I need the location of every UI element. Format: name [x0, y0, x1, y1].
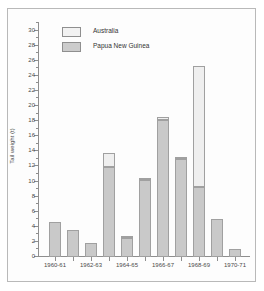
y-axis-tick-minor [36, 113, 38, 114]
y-axis-tick-label: 6 [32, 208, 35, 214]
bar-column [67, 23, 78, 257]
bar-segment-australia [157, 117, 168, 119]
bar-segment-papua-new-guinea [211, 219, 222, 257]
chart-legend: Australia Papua New Guinea [62, 24, 182, 54]
y-axis-tick-minor [36, 37, 38, 38]
bar-segment-australia [121, 236, 132, 238]
y-axis-tick-label: 22 [28, 87, 35, 93]
x-axis-tick [55, 257, 56, 261]
legend-label-australia: Australia [93, 28, 118, 35]
y-axis-tick-label: 8 [32, 193, 35, 199]
bar-column [157, 23, 168, 257]
y-axis-tick-label: 26 [28, 57, 35, 63]
x-axis-tick-label: 1962-63 [80, 262, 102, 268]
bar-segment-papua-new-guinea [121, 238, 132, 257]
y-axis-tick-label: 20 [28, 102, 35, 108]
bar-segment-australia [175, 157, 186, 159]
x-axis-tick [91, 257, 92, 261]
bar-segment-australia [139, 178, 150, 180]
bar-column [211, 23, 222, 257]
bar-segment-australia [103, 153, 114, 167]
x-axis-tick-label: 1966-67 [152, 262, 174, 268]
y-axis-tick-label: 2 [32, 238, 35, 244]
bar-column [229, 23, 240, 257]
x-axis-tick-label: 1964-65 [116, 262, 138, 268]
x-axis-tick [181, 257, 182, 261]
legend-swatch-australia [62, 27, 81, 37]
y-axis-tick-minor [36, 52, 38, 53]
legend-item-australia: Australia [62, 24, 182, 39]
y-axis-tick-minor [36, 22, 38, 23]
x-axis-tick-label: 1968-69 [188, 262, 210, 268]
y-axis-tick-minor [36, 97, 38, 98]
y-axis-tick-minor [36, 233, 38, 234]
bar-segment-papua-new-guinea [175, 159, 186, 257]
y-axis-tick-minor [36, 67, 38, 68]
y-axis-tick-minor [36, 82, 38, 83]
bar-segment-papua-new-guinea [103, 167, 114, 257]
x-axis-tick [127, 257, 128, 261]
y-axis-tick-label: 30 [28, 27, 35, 33]
y-axis-tick-minor [36, 143, 38, 144]
bar-segment-papua-new-guinea [49, 222, 60, 257]
x-axis-tick [73, 257, 74, 261]
bar-column [193, 23, 204, 257]
bar-column [139, 23, 150, 257]
bar-segment-papua-new-guinea [139, 180, 150, 257]
y-axis-line [38, 22, 39, 257]
y-axis-tick-minor [36, 188, 38, 189]
bar-column [85, 23, 96, 257]
y-axis-title: Tail weight (t) [9, 128, 15, 163]
y-axis-tick-label: 12 [28, 162, 35, 168]
bar-segment-papua-new-guinea [67, 230, 78, 257]
bar-column [175, 23, 186, 257]
x-axis-tick [109, 257, 110, 261]
y-axis-tick-minor [36, 203, 38, 204]
x-axis-tick [235, 257, 236, 261]
bar-segment-papua-new-guinea [193, 187, 204, 257]
y-axis-tick-label: 10 [28, 178, 35, 184]
chart-figure: Tail weight (t) 024681012141618202224262… [0, 0, 264, 291]
bar-segment-papua-new-guinea [157, 120, 168, 257]
y-axis-tick-minor [36, 158, 38, 159]
y-axis-tick-label: 28 [28, 42, 35, 48]
plot-area: 024681012141618202224262830 1960-611962-… [38, 22, 250, 257]
bar-segment-australia [193, 66, 204, 187]
bar-column [121, 23, 132, 257]
y-axis-tick-minor [36, 128, 38, 129]
x-axis-tick [163, 257, 164, 261]
y-axis-tick-label: 0 [32, 253, 35, 259]
x-axis-tick [145, 257, 146, 261]
y-axis-tick-label: 24 [28, 72, 35, 78]
x-axis-tick [199, 257, 200, 261]
y-axis-tick-minor [36, 218, 38, 219]
x-axis-tick [217, 257, 218, 261]
legend-label-papua-new-guinea: Papua New Guinea [93, 43, 149, 50]
y-axis-tick-label: 14 [28, 147, 35, 153]
bar-column [103, 23, 114, 257]
y-axis-tick-minor [36, 173, 38, 174]
y-axis-tick-minor [36, 248, 38, 249]
legend-swatch-papua-new-guinea [62, 42, 81, 52]
y-axis-tick-label: 4 [32, 223, 35, 229]
bar-segment-papua-new-guinea [229, 249, 240, 257]
bar-column [49, 23, 60, 257]
legend-item-papua-new-guinea: Papua New Guinea [62, 39, 182, 54]
x-axis-tick-label: 1960-61 [44, 262, 66, 268]
bar-segment-papua-new-guinea [85, 243, 96, 257]
x-axis-tick-label: 1970-71 [224, 262, 246, 268]
y-axis-tick-label: 18 [28, 117, 35, 123]
y-axis-tick-label: 16 [28, 132, 35, 138]
